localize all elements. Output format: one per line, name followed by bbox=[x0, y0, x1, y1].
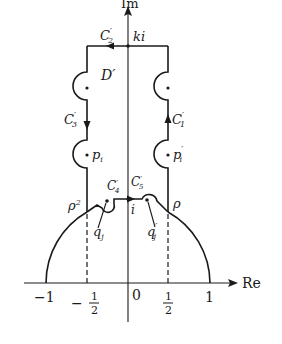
tick-one: 1 bbox=[205, 289, 214, 305]
label-p-left: pi bbox=[92, 147, 103, 164]
point-right-upper bbox=[166, 86, 169, 89]
real-axis-label: Re bbox=[242, 275, 261, 291]
point-p-left bbox=[85, 153, 88, 156]
contour-left-side bbox=[73, 46, 87, 212]
label-p-right: p′i bbox=[173, 145, 183, 164]
label-i: i bbox=[131, 203, 135, 217]
point-p-right bbox=[166, 153, 169, 156]
label-q-left: qj bbox=[93, 224, 104, 241]
real-axis: Re bbox=[24, 275, 261, 291]
tick-neg-half-den: 2 bbox=[91, 304, 98, 317]
label-region-d: D′ bbox=[100, 67, 116, 83]
point-i bbox=[126, 197, 129, 200]
tick-neg-one: −1 bbox=[34, 289, 55, 305]
point-ki bbox=[126, 44, 130, 48]
label-c5: C′5 bbox=[131, 174, 144, 191]
label-rho-squared: ρ2 bbox=[67, 198, 81, 213]
point-q-right bbox=[145, 198, 149, 202]
contour-diagram: Re Im C′2 ki D′ C′3 C′1 pi p′i C′ bbox=[0, 0, 282, 344]
imaginary-axis: Im bbox=[121, 0, 138, 322]
imag-axis-label: Im bbox=[121, 0, 138, 11]
label-ki: ki bbox=[133, 29, 145, 44]
label-rho: ρ bbox=[172, 196, 181, 211]
arrow-c1-icon bbox=[165, 114, 172, 123]
label-c3: C′3 bbox=[64, 111, 77, 129]
unit-arc-left bbox=[46, 212, 87, 283]
label-c1: C′1 bbox=[172, 111, 185, 129]
label-c4: C′4 bbox=[107, 178, 119, 195]
label-c2: C′2 bbox=[100, 27, 113, 45]
arrow-c3-icon bbox=[84, 121, 91, 130]
point-q-left bbox=[105, 199, 109, 203]
tick-half-num: 1 bbox=[165, 290, 172, 303]
tick-zero: 0 bbox=[132, 287, 141, 303]
point-left-upper bbox=[85, 86, 88, 89]
tick-neg-half-sign: − bbox=[71, 295, 83, 311]
label-q-right: q′j bbox=[147, 222, 157, 241]
contour-right-side bbox=[154, 46, 168, 212]
tick-half-den: 2 bbox=[165, 304, 172, 317]
unit-arc-right bbox=[168, 212, 210, 283]
tick-neg-half-num: 1 bbox=[91, 290, 98, 303]
